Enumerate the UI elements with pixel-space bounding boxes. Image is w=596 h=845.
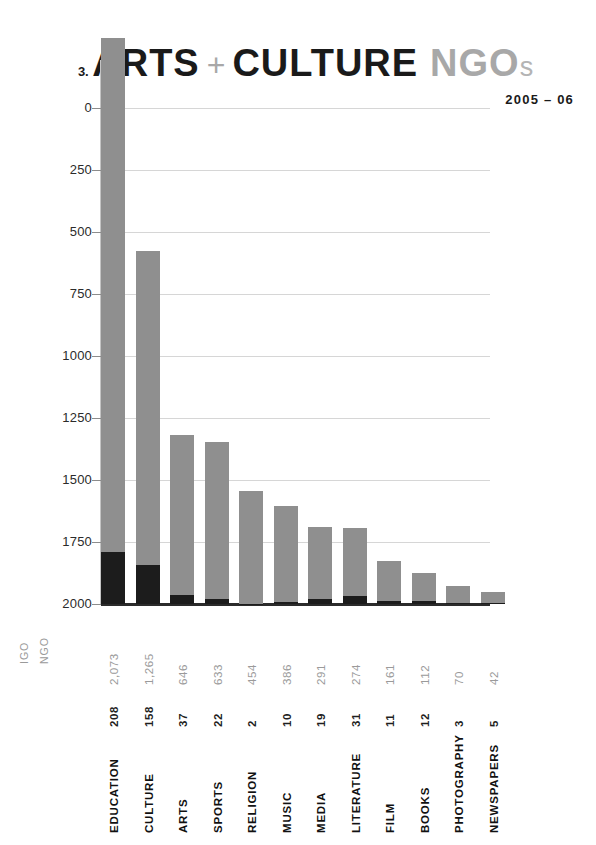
bar-segment-igo[interactable] [205, 599, 229, 604]
y-tick-label-0: 2000 [46, 596, 92, 611]
bar-segment-igo[interactable] [136, 565, 160, 604]
bar-segment-igo[interactable] [274, 602, 298, 604]
bar-segment-ngo[interactable] [343, 528, 367, 596]
category-column: 2,073208EDUCATION [101, 610, 125, 835]
bar-segment-ngo[interactable] [274, 506, 298, 602]
title-word-ngo: NGOs [430, 44, 534, 82]
chart-title: 3. ARTS + CULTURE NGOs [78, 44, 578, 90]
category-column: 27431LITERATURE [343, 610, 367, 835]
bar-segment-ngo[interactable] [446, 586, 470, 603]
category-label: LITERATURE [350, 753, 362, 833]
value-label-igo: 5 [488, 720, 500, 727]
category-label: MEDIA [315, 792, 327, 833]
chart-page: 3. ARTS + CULTURE NGOs 2005 – 06 2000175… [0, 0, 596, 845]
value-label-igo: 10 [281, 713, 293, 727]
category-label: EDUCATION [108, 758, 120, 833]
y-tick-1750 [92, 170, 101, 171]
category-column: 11212BOOKS [412, 610, 436, 835]
y-tick-0 [92, 604, 101, 605]
value-label-ngo: 2,073 [108, 653, 120, 685]
title-ngo-caps: NGO [430, 42, 520, 84]
legend-item-ngo: NGO [38, 637, 50, 664]
y-tick-2000 [92, 108, 101, 109]
value-label-igo: 12 [419, 713, 431, 727]
value-label-ngo: 646 [177, 664, 189, 685]
category-labels-container: 2,073208EDUCATION1,265158CULTURE64637ART… [101, 610, 490, 840]
value-label-igo: 158 [143, 706, 155, 727]
y-tick-label-500: 1500 [46, 472, 92, 487]
bar-group[interactable] [446, 586, 470, 604]
value-label-ngo: 112 [419, 665, 431, 685]
gridline-0 [101, 604, 490, 605]
category-label: BOOKS [419, 787, 431, 833]
value-label-igo: 19 [315, 713, 327, 727]
y-tick-label-750: 1250 [46, 410, 92, 425]
category-label: PHOTOGRAPHY [453, 734, 465, 833]
category-label: SPORTS [212, 781, 224, 833]
category-column: 63322SPORTS [205, 610, 229, 835]
value-label-igo: 3 [453, 720, 465, 727]
y-tick-label-2000: 0 [46, 100, 92, 115]
category-label: ARTS [177, 798, 189, 833]
bar-group[interactable] [274, 506, 298, 604]
title-index: 3. [78, 64, 88, 79]
category-label: FILM [384, 803, 396, 833]
value-label-ngo: 454 [246, 664, 258, 685]
y-tick-1000 [92, 356, 101, 357]
bar-segment-igo[interactable] [481, 603, 505, 604]
bar-group[interactable] [170, 435, 194, 604]
bar-group[interactable] [308, 527, 332, 604]
value-label-ngo: 274 [350, 664, 362, 685]
bar-segment-ngo[interactable] [412, 573, 436, 601]
bar-segment-ngo[interactable] [101, 38, 125, 552]
category-column: 16111FILM [377, 610, 401, 835]
bar-segment-igo[interactable] [170, 595, 194, 604]
bar-group[interactable] [101, 38, 125, 604]
bar-segment-igo[interactable] [446, 603, 470, 604]
y-tick-500 [92, 480, 101, 481]
bar-group[interactable] [205, 442, 229, 604]
bar-segment-ngo[interactable] [308, 527, 332, 599]
bar-segment-igo[interactable] [101, 552, 125, 604]
title-plus-sign: + [207, 49, 226, 81]
value-label-igo: 31 [350, 713, 362, 727]
value-label-ngo: 386 [281, 664, 293, 685]
category-column: 4542RELIGION [239, 610, 263, 835]
title-ngo-lowercase-s: s [520, 52, 534, 82]
value-label-ngo: 70 [453, 671, 465, 685]
legend: IGO NGO [30, 612, 96, 664]
bar-segment-ngo[interactable] [481, 592, 505, 602]
title-word-culture: CULTURE [232, 44, 418, 82]
category-column: 1,265158CULTURE [136, 610, 160, 835]
category-label: NEWSPAPERS [488, 744, 500, 833]
bar-segment-igo[interactable] [343, 596, 367, 604]
category-label: MUSIC [281, 792, 293, 833]
bar-group[interactable] [343, 528, 367, 604]
bar-group[interactable] [481, 592, 505, 604]
bar-segment-igo[interactable] [308, 599, 332, 604]
bar-segment-ngo[interactable] [170, 435, 194, 595]
y-tick-250 [92, 542, 101, 543]
bar-group[interactable] [377, 561, 401, 604]
bar-segment-ngo[interactable] [136, 251, 160, 565]
value-label-igo: 208 [108, 706, 120, 727]
bar-segment-ngo[interactable] [239, 491, 263, 604]
y-tick-1250 [92, 294, 101, 295]
y-tick-label-1000: 1000 [46, 348, 92, 363]
bar-segment-ngo[interactable] [205, 442, 229, 599]
y-tick-1500 [92, 232, 101, 233]
chart-subtitle: 2005 – 06 [505, 92, 574, 107]
category-column: 425NEWSPAPERS [481, 610, 505, 835]
bar-group[interactable] [412, 573, 436, 604]
bar-group[interactable] [136, 251, 160, 604]
value-label-igo: 22 [212, 713, 224, 727]
value-label-igo: 37 [177, 713, 189, 727]
y-tick-label-250: 1750 [46, 534, 92, 549]
bar-segment-ngo[interactable] [377, 561, 401, 601]
category-column: 29119MEDIA [308, 610, 332, 835]
bar-group[interactable] [239, 491, 263, 604]
y-tick-label-1500: 500 [46, 224, 92, 239]
bar-segment-igo[interactable] [377, 601, 401, 604]
y-tick-label-1250: 750 [46, 286, 92, 301]
bar-segment-igo[interactable] [412, 601, 436, 604]
